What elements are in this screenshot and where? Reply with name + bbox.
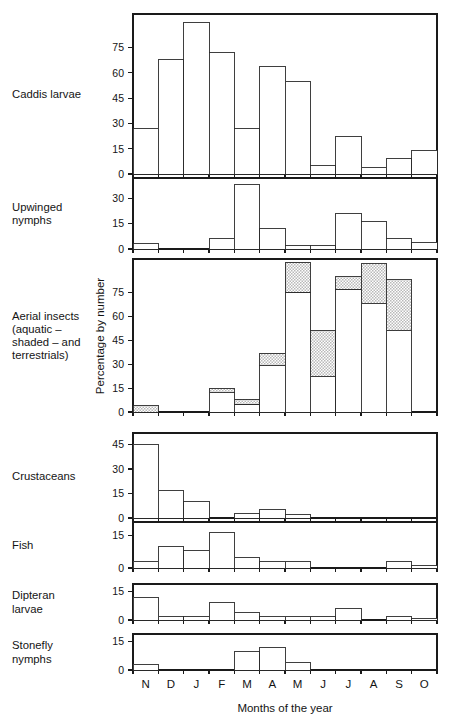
row-label-aerial-insects: terrestrials) [12, 349, 69, 361]
bar-aerial-insects-S-open [386, 331, 411, 412]
bars-dipteran-larvae [133, 597, 437, 620]
bar-upwinged-nymphs-S-open [386, 239, 411, 249]
y-tick-label-caddis-larvae-15: 15 [112, 143, 124, 155]
bars-crustaceans [133, 444, 310, 518]
bar-caddis-larvae-M-open [234, 129, 259, 174]
panel-frame-dipteran-larvae [133, 584, 437, 620]
chart-canvas: 01530456075Caddis larvae01530Upwingednym… [0, 0, 455, 724]
y-tick-label-caddis-larvae-60: 60 [112, 67, 124, 79]
panel-aerial-insects: 01530456075Aerial insects(aquatic –shade… [12, 259, 437, 418]
bar-upwinged-nymphs-M-open [234, 185, 259, 249]
y-tick-label-crustaceans-0: 0 [118, 512, 124, 524]
row-label-dipteran-larvae: Dipteran [12, 589, 55, 601]
row-label-caddis-larvae: Caddis larvae [12, 88, 81, 100]
bar-dipteran-larvae-D-open [158, 616, 183, 620]
bar-upwinged-nymphs-A-open [260, 229, 285, 249]
row-label-stonefly-nymphs: nymphs [12, 653, 52, 665]
bar-caddis-larvae-F-open [209, 53, 234, 174]
bar-fish-A-open [260, 561, 285, 568]
bar-stonefly-nymphs-M-open [285, 662, 310, 670]
bar-crustaceans-D-open [158, 490, 183, 518]
bar-fish-D-open [158, 546, 183, 568]
row-label-stonefly-nymphs: Stonefly [12, 639, 53, 651]
prey-composition-chart: 01530456075Caddis larvae01530Upwingednym… [0, 0, 455, 724]
y-tick-label-caddis-larvae-75: 75 [112, 41, 124, 53]
row-label-upwinged-nymphs: nymphs [12, 214, 52, 226]
y-tick-label-upwinged-nymphs-15: 15 [112, 217, 124, 229]
bar-aerial-insects-J-shaded [310, 331, 335, 377]
panel-caddis-larvae: 01530456075Caddis larvae [12, 14, 437, 180]
month-label-7: J [320, 678, 326, 690]
month-label-1: D [167, 678, 175, 690]
y-tick-label-dipteran-larvae-15: 15 [112, 585, 124, 597]
y-tick-label-caddis-larvae-45: 45 [112, 92, 124, 104]
y-tick-label-caddis-larvae-30: 30 [112, 117, 124, 129]
y-tick-label-aerial-insects-30: 30 [112, 358, 124, 370]
bar-aerial-insects-J-shaded [336, 277, 361, 290]
panel-dipteran-larvae: 015Dipteranlarvae [12, 584, 437, 626]
bar-upwinged-nymphs-M-open [285, 246, 310, 249]
row-label-aerial-insects: (aquatic – [12, 323, 62, 335]
bar-aerial-insects-A-shaded [260, 353, 285, 366]
bars-aerial-insects [133, 262, 412, 412]
row-label-crustaceans: Crustaceans [12, 470, 76, 482]
y-tick-label-stonefly-nymphs-15: 15 [112, 635, 124, 647]
y-tick-label-aerial-insects-15: 15 [112, 382, 124, 394]
y-tick-label-dipteran-larvae-0: 0 [118, 614, 124, 626]
bar-fish-F-open [209, 533, 234, 568]
bar-fish-M-open [285, 561, 310, 568]
month-label-10: S [395, 678, 403, 690]
bar-caddis-larvae-J-open [184, 22, 209, 174]
y-tick-label-upwinged-nymphs-30: 30 [112, 192, 124, 204]
bars-upwinged-nymphs [133, 185, 437, 249]
y-tick-label-crustaceans-45: 45 [112, 438, 124, 450]
bar-fish-M-open [234, 557, 259, 568]
bar-caddis-larvae-S-open [386, 159, 411, 174]
bar-fish-J-open [184, 550, 209, 568]
bar-aerial-insects-A-open [361, 304, 386, 412]
bar-fish-S-open [386, 561, 411, 568]
bar-dipteran-larvae-A-open [260, 616, 285, 620]
bar-caddis-larvae-O-open [412, 150, 437, 174]
bar-dipteran-larvae-M-open [285, 616, 310, 620]
month-label-11: O [420, 678, 429, 690]
month-label-4: M [242, 678, 252, 690]
month-axis-labels: NDJFMAMJJASO [142, 678, 429, 690]
bar-upwinged-nymphs-J-open [336, 214, 361, 250]
row-label-upwinged-nymphs: Upwinged [12, 201, 62, 213]
bar-dipteran-larvae-J-open [310, 616, 335, 620]
month-label-6: M [293, 678, 303, 690]
month-label-3: F [218, 678, 225, 690]
y-tick-label-aerial-insects-0: 0 [118, 406, 124, 418]
bar-crustaceans-J-open [184, 502, 209, 518]
month-label-9: A [370, 678, 378, 690]
bar-dipteran-larvae-J-open [336, 609, 361, 620]
bar-caddis-larvae-D-open [158, 59, 183, 174]
bar-caddis-larvae-J-open [310, 166, 335, 174]
y-tick-label-fish-15: 15 [112, 529, 124, 541]
y-tick-label-crustaceans-30: 30 [112, 463, 124, 475]
bar-crustaceans-M-open [285, 515, 310, 518]
bar-aerial-insects-M-shaded [285, 262, 310, 292]
bar-caddis-larvae-M-open [285, 81, 310, 174]
bar-fish-N-open [133, 561, 158, 568]
row-label-aerial-insects: Aerial insects [12, 310, 80, 322]
bars-caddis-larvae [133, 22, 437, 174]
y-tick-label-crustaceans-15: 15 [112, 487, 124, 499]
bar-aerial-insects-M-open [285, 292, 310, 412]
bar-stonefly-nymphs-A-open [260, 647, 285, 670]
bars-stonefly-nymphs [133, 647, 310, 670]
row-label-fish: Fish [12, 539, 33, 551]
y-tick-label-aerial-insects-60: 60 [112, 310, 124, 322]
bar-aerial-insects-N-shaded [133, 406, 158, 412]
bar-stonefly-nymphs-M-open [234, 651, 259, 670]
bar-aerial-insects-M-shaded [234, 399, 259, 404]
bar-upwinged-nymphs-A-open [361, 222, 386, 249]
bar-aerial-insects-F-open [209, 393, 234, 412]
month-label-2: J [193, 678, 199, 690]
bar-crustaceans-A-open [260, 510, 285, 518]
bar-dipteran-larvae-N-open [133, 597, 158, 620]
bar-dipteran-larvae-F-open [209, 603, 234, 620]
bar-aerial-insects-A-open [260, 366, 285, 412]
bar-aerial-insects-S-shaded [386, 280, 411, 331]
